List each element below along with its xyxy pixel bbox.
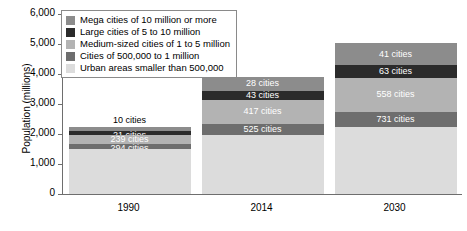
bar-group[interactable]: 28 cities43 cities417 cities525 cities (202, 77, 324, 194)
chart-legend: Mega cities of 10 million or moreLarge c… (61, 10, 237, 78)
x-tick-label: 2030 (328, 202, 461, 213)
y-tick: 4,000 (22, 74, 62, 75)
bar-segment[interactable]: 525 cities (202, 124, 324, 135)
legend-label: Mega cities of 10 million or more (80, 15, 217, 25)
segment-value-label: 525 cities (202, 125, 324, 134)
y-tick-mark (58, 164, 62, 165)
legend-label: Large cities of 5 to 10 million (80, 27, 200, 37)
legend-item[interactable]: Medium-sized cities of 1 to 5 million (66, 38, 230, 50)
y-tick-mark (58, 134, 62, 135)
y-tick-mark (58, 194, 62, 195)
y-tick: 0 (22, 194, 62, 195)
segment-value-label: 41 cities (335, 50, 457, 59)
legend-swatch-icon (66, 40, 75, 49)
segment-value-label: 28 cities (202, 79, 324, 88)
legend-swatch-icon (66, 52, 75, 61)
y-tick-label: 5,000 (30, 37, 55, 48)
legend-item[interactable]: Mega cities of 10 million or more (66, 14, 230, 26)
legend-label: Cities of 500,000 to 1 million (80, 51, 199, 61)
bar-segment[interactable]: 558 cities (335, 78, 457, 112)
y-tick-label: 2,000 (30, 127, 55, 138)
y-tick-label: 4,000 (30, 67, 55, 78)
segment-value-label: 417 cities (202, 107, 324, 116)
x-tick-label: 1990 (62, 202, 195, 213)
segment-value-label: 731 cities (335, 115, 457, 124)
legend-item[interactable]: Large cities of 5 to 10 million (66, 26, 230, 38)
y-tick-label: 1,000 (30, 157, 55, 168)
segment-value-label: 43 cities (202, 91, 324, 100)
bar-segment[interactable]: 63 cities (335, 65, 457, 78)
legend-swatch-icon (66, 16, 75, 25)
x-tick-label: 2014 (195, 202, 328, 213)
segment-value-label: 63 cities (335, 67, 457, 76)
y-tick: 3,000 (22, 104, 62, 105)
bar-segment[interactable] (335, 127, 457, 194)
bar-segment[interactable]: 43 cities (202, 91, 324, 100)
x-axis-line (62, 194, 462, 195)
bar-segment[interactable]: 731 cities (335, 112, 457, 127)
legend-swatch-icon (66, 28, 75, 37)
segment-value-label: 558 cities (335, 90, 457, 99)
y-tick: 6,000 (22, 14, 62, 15)
y-tick-label: 0 (49, 187, 55, 198)
bar-group[interactable]: 10 cities21 cities239 cities294 cities (69, 127, 191, 195)
legend-label: Urban areas smaller than 500,000 (80, 63, 224, 73)
stacked-bar-chart: Population (millions) 01,0002,0003,0004,… (0, 0, 467, 231)
y-tick-label: 6,000 (30, 7, 55, 18)
bar-segment[interactable] (69, 149, 191, 194)
bar-segment[interactable]: 28 cities (202, 77, 324, 91)
legend-item[interactable]: Urban areas smaller than 500,000 (66, 62, 230, 74)
segment-value-label: 10 cities (69, 116, 191, 125)
legend-label: Medium-sized cities of 1 to 5 million (80, 39, 230, 49)
bar-segment[interactable]: 41 cities (335, 43, 457, 65)
bar-group[interactable]: 41 cities63 cities558 cities731 cities (335, 43, 457, 194)
y-tick: 2,000 (22, 134, 62, 135)
bar-segment[interactable]: 417 cities (202, 100, 324, 125)
legend-swatch-icon (66, 64, 75, 73)
y-tick-label: 3,000 (30, 97, 55, 108)
bar-segment[interactable] (202, 135, 324, 194)
y-tick: 5,000 (22, 44, 62, 45)
y-tick: 1,000 (22, 164, 62, 165)
y-tick-mark (58, 104, 62, 105)
legend-item[interactable]: Cities of 500,000 to 1 million (66, 50, 230, 62)
